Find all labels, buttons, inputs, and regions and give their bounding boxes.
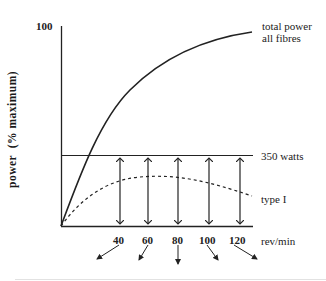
total-power-label-line2: all fibres [262, 32, 301, 44]
x-tick-100: 100 [199, 234, 216, 246]
cadence-arrows [97, 245, 257, 264]
type-1-curve [61, 176, 252, 226]
double-arrows [120, 158, 240, 224]
y-axis-label: power (% maximum) [6, 71, 18, 188]
x-tick-40: 40 [113, 234, 124, 246]
total-power-curve [61, 32, 252, 226]
total-power-label-line1: total power [262, 20, 312, 32]
y-max-label: 100 [36, 20, 53, 32]
reference-line-label: 350 watts [261, 150, 303, 162]
type-1-label: type I [261, 193, 286, 205]
x-tick-80: 80 [172, 234, 183, 246]
x-tick-60: 60 [142, 234, 153, 246]
x-tick-120: 120 [229, 234, 246, 246]
x-unit-label: rev/min [261, 235, 295, 247]
